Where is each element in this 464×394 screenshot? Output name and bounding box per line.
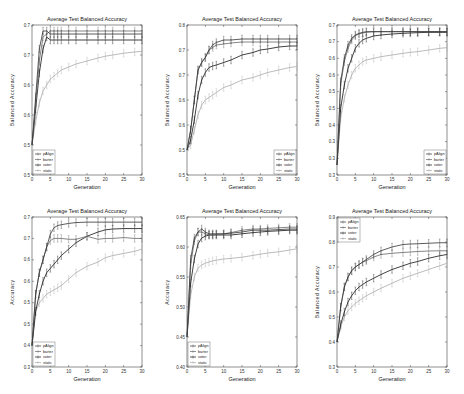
chart-panel-2: Average Test Balanced Accuracy0510152025… — [155, 0, 310, 204]
legend-entry-static: static — [434, 169, 443, 173]
y-tick-label: 0.9 — [329, 215, 336, 220]
x-tick-label: 20 — [103, 369, 109, 374]
y-tick-label: 0.5 — [329, 89, 336, 94]
y-tick-label: 0.7 — [329, 39, 336, 44]
y-axis-label: Balanced Accuracy — [9, 74, 15, 127]
legend: pAlignbartervoterstatic — [338, 218, 360, 242]
x-tick-label: 0 — [186, 369, 189, 374]
legend: pAlignbartervoterstatic — [33, 342, 55, 366]
x-tick-label: 5 — [49, 369, 52, 374]
x-tick-label: 5 — [204, 369, 207, 374]
x-tick-label: 25 — [121, 369, 127, 374]
legend-entry-static: static — [284, 169, 293, 173]
x-tick-label: 30 — [139, 177, 145, 182]
y-tick-label: 0.7 — [24, 23, 31, 28]
legend-entry-voter: voter — [434, 163, 443, 167]
y-tick-label: 0.6 — [24, 279, 31, 284]
y-tick-label: 0.5 — [329, 315, 336, 320]
legend: pAlignbartervoterstatic — [274, 150, 296, 174]
legend-entry-pAlign: pAlign — [43, 344, 54, 348]
series-line-barter — [187, 227, 297, 337]
y-tick-label: 0.40 — [176, 365, 185, 370]
chart-svg: Average Test Balanced Accuracy0510152025… — [305, 0, 460, 200]
series-line-voter — [187, 46, 297, 150]
y-tick-label: 0.8 — [329, 240, 336, 245]
legend-entry-voter: voter — [43, 163, 52, 167]
legend-entry-barter: barter — [43, 350, 54, 354]
legend-entry-barter: barter — [198, 350, 209, 354]
y-tick-label: 0.5 — [179, 148, 186, 153]
x-tick-label: 25 — [276, 177, 282, 182]
x-tick-label: 0 — [336, 177, 339, 182]
y-tick-label: 0.5 — [24, 173, 31, 178]
x-tick-label: 25 — [121, 177, 127, 182]
legend: pAlignbartervoterstatic — [188, 342, 210, 366]
chart-title: Average Test Balanced Accuracy — [352, 208, 432, 214]
x-tick-label: 25 — [276, 369, 282, 374]
legend-entry-pAlign: pAlign — [198, 344, 209, 348]
y-axis-label: Balanced Accuracy — [164, 74, 170, 127]
y-tick-label: 0.6 — [329, 73, 336, 78]
x-tick-label: 10 — [371, 369, 377, 374]
x-tick-label: 30 — [139, 369, 145, 374]
y-tick-label: 0.3 — [329, 173, 336, 178]
chart-title: Average Test Balanced Accuracy — [352, 16, 432, 22]
legend-entry-pAlign: pAlign — [434, 152, 445, 156]
x-tick-label: 30 — [294, 177, 300, 182]
chart-title: Average Test Balanced Accuracy — [47, 16, 127, 22]
x-tick-label: 30 — [444, 177, 450, 182]
x-tick-label: 30 — [294, 369, 300, 374]
legend-entry-pAlign: pAlign — [43, 152, 54, 156]
y-tick-label: 0.3 — [329, 365, 336, 370]
x-axis-label: Generation — [228, 376, 255, 382]
chart-title: Average Test Balanced Accuracy — [47, 208, 127, 214]
legend-entry-barter: barter — [434, 158, 445, 162]
x-tick-label: 5 — [49, 177, 52, 182]
legend-entry-static: static — [43, 361, 52, 365]
legend: pAlignbartervoterstatic — [33, 150, 55, 174]
y-tick-label: 0.6 — [179, 98, 186, 103]
y-tick-label: 0.7 — [329, 265, 336, 270]
y-tick-label: 0.7 — [24, 53, 31, 58]
x-tick-label: 0 — [31, 177, 34, 182]
x-tick-label: 15 — [84, 177, 90, 182]
y-tick-label: 0.6 — [329, 290, 336, 295]
chart-svg: Average Test Balanced Accuracy0510152025… — [0, 192, 155, 392]
y-tick-label: 0.60 — [176, 245, 185, 250]
y-tick-label: 0.6 — [329, 56, 336, 61]
series-line-static — [32, 51, 142, 145]
legend-entry-voter: voter — [43, 355, 52, 359]
y-tick-label: 0.5 — [24, 300, 31, 305]
x-tick-label: 0 — [31, 369, 34, 374]
y-tick-label: 0.5 — [179, 173, 186, 178]
y-tick-label: 0.7 — [179, 73, 186, 78]
x-tick-label: 5 — [204, 177, 207, 182]
y-tick-label: 0.3 — [329, 139, 336, 144]
series-line-pAlign — [32, 222, 142, 345]
x-tick-label: 5 — [354, 177, 357, 182]
x-tick-label: 25 — [426, 177, 432, 182]
legend-entry-barter: barter — [43, 158, 54, 162]
y-axis-label: Balanced Accuracy — [314, 266, 320, 319]
legend-entry-voter: voter — [348, 231, 357, 235]
y-tick-label: 0.5 — [329, 106, 336, 111]
series-line-pAlign — [187, 229, 297, 337]
y-axis-label: Accuracy — [164, 279, 170, 304]
chart-svg: Average Test Balanced Accuracy0510152025… — [155, 192, 310, 392]
chart-panel-1: Average Test Balanced Accuracy0510152025… — [0, 0, 155, 204]
series-line-static — [337, 263, 447, 342]
chart-title: Average Test Balanced Accuracy — [202, 16, 282, 22]
y-tick-label: 0.8 — [179, 23, 186, 28]
y-tick-label: 0.6 — [24, 257, 31, 262]
y-tick-label: 0.6 — [179, 123, 186, 128]
y-tick-label: 0.6 — [24, 113, 31, 118]
legend-entry-voter: voter — [198, 355, 207, 359]
x-tick-label: 20 — [408, 177, 414, 182]
x-tick-label: 20 — [258, 369, 264, 374]
series-line-barter — [32, 31, 142, 145]
x-tick-label: 10 — [221, 177, 227, 182]
x-tick-label: 20 — [408, 369, 414, 374]
x-tick-label: 0 — [336, 369, 339, 374]
x-tick-label: 10 — [221, 369, 227, 374]
y-axis-label: Balanced Accuracy — [314, 74, 320, 127]
